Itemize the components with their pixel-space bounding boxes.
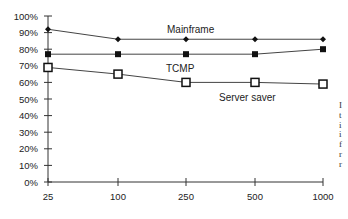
x-tick-label: 1000 [312,191,333,202]
chart-axes [44,16,323,186]
x-tick-label: 25 [43,191,54,202]
y-tick-label: 0% [24,177,38,188]
x-tick-label: 100 [110,191,126,202]
cropped-adjacent-text: Itiifrr [339,101,348,170]
series-tcmp [45,46,326,57]
open-square-marker [44,63,52,71]
open-square-marker [114,70,122,78]
filled-square-marker [45,51,51,57]
filled-square-marker [115,51,121,57]
diamond-marker [320,36,326,42]
diamond-marker [115,36,121,42]
series-label-server-saver: Server saver [219,92,276,103]
series-label-mainframe: Mainframe [167,24,215,35]
cropped-text-fragment: r [339,160,348,170]
y-tick-label: 20% [19,143,39,154]
diamond-marker [252,36,258,42]
y-tick-label: 90% [19,27,39,38]
line-chart: 0%10%20%30%40%50%60%70%80%90%100% 251002… [0,0,348,219]
y-tick-label: 30% [19,127,39,138]
y-tick-label: 100% [14,11,39,22]
diamond-marker [45,26,51,32]
open-square-marker [182,78,190,86]
y-tick-label: 60% [19,77,39,88]
y-tick-label: 80% [19,44,39,55]
y-tick-label: 70% [19,60,39,71]
y-axis-labels: 0%10%20%30%40%50%60%70%80%90%100% [14,11,39,188]
y-tick-label: 50% [19,94,39,105]
y-tick-label: 40% [19,110,39,121]
x-tick-label: 500 [247,191,263,202]
series-label-tcmp: TCMP [166,63,195,74]
open-square-marker [251,78,259,86]
filled-square-marker [183,51,189,57]
series-group [44,26,327,88]
y-tick-label: 10% [19,160,39,171]
diamond-marker [183,36,189,42]
filled-square-marker [252,51,258,57]
filled-square-marker [320,46,326,52]
open-square-marker [319,80,327,88]
x-axis-labels: 251002505001000 [43,191,334,202]
x-tick-label: 250 [178,191,194,202]
